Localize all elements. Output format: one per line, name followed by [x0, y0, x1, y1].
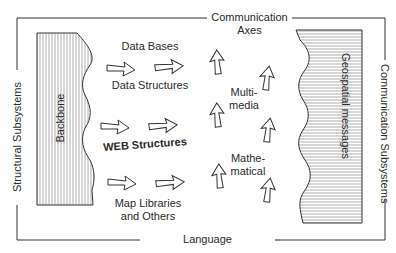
geospatial-block: [296, 30, 362, 223]
map-libraries-label: Map Libraries and Others: [103, 197, 193, 223]
data-bases-label: Data Bases: [105, 40, 195, 53]
right-arrow-icon: [154, 58, 184, 76]
top-label-line1: Communication: [207, 11, 292, 24]
multimedia-line2: media: [222, 99, 266, 112]
mathematical-line1: Mathe-: [224, 152, 272, 165]
up-arrow-icon: [260, 177, 276, 202]
right-arrow-icon: [148, 117, 178, 135]
right-arrow-icon: [108, 176, 136, 190]
geospatial-label: Geospatial messages: [340, 46, 352, 166]
right-arrow-icon: [107, 62, 135, 76]
map-libraries-line2: and Others: [103, 210, 193, 223]
mathematical-label: Mathe- matical: [224, 152, 272, 178]
multimedia-line1: Multi-: [222, 86, 266, 99]
top-label-line2: Axes: [207, 24, 292, 37]
bottom-label: Language: [140, 233, 275, 246]
left-label: Structural Subsystems: [11, 74, 23, 200]
map-libraries-line1: Map Libraries: [103, 197, 193, 210]
backbone-label: Backbone: [54, 88, 66, 148]
up-arrow-icon: [260, 117, 276, 142]
mathematical-line2: matical: [224, 165, 272, 178]
data-structures-label: Data Structures: [105, 79, 195, 92]
right-arrow-icon: [101, 120, 129, 134]
top-label: Communication Axes: [207, 11, 292, 37]
right-arrow-icon: [155, 174, 185, 192]
up-arrow-icon: [209, 49, 225, 74]
multimedia-label: Multi- media: [222, 86, 266, 112]
right-label: Communication Subsystems: [379, 64, 391, 194]
